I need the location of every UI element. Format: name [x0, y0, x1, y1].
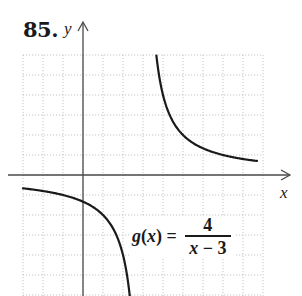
denominator-constant: − 3: [198, 238, 226, 258]
problem-number: 85.: [23, 17, 58, 42]
function-curves: [23, 56, 257, 296]
fraction: 4 x − 3: [185, 216, 231, 257]
denominator-variable: x: [189, 238, 198, 258]
denominator: x − 3: [189, 239, 226, 257]
formula-lhs: g(x) =: [132, 226, 177, 247]
fraction-bar: [185, 235, 231, 237]
function-variable: x: [147, 226, 156, 246]
y-axis-label: y: [64, 19, 72, 39]
curve-right-branch: [156, 56, 257, 161]
function-name: g: [132, 226, 141, 246]
equals-sign: =: [167, 226, 177, 246]
curve-left-branch: [23, 188, 130, 296]
function-formula: g(x) = 4 x − 3: [129, 216, 234, 257]
x-axis-label: x: [280, 183, 288, 203]
numerator: 4: [199, 216, 216, 234]
paren-close: ): [156, 226, 162, 246]
graph-figure: 85. y x g(x) = 4 x − 3: [0, 0, 302, 296]
